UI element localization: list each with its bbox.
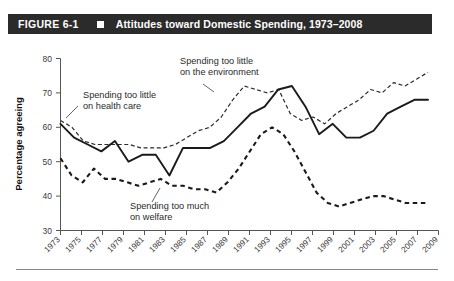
square-bullet-icon bbox=[97, 21, 104, 28]
y-tick-label-60: 60 bbox=[43, 122, 53, 132]
x-tick-label-2001: 2001 bbox=[337, 235, 357, 255]
annotation-welfare-line-1: Spending too much bbox=[130, 201, 209, 211]
page-bottom-rule bbox=[16, 269, 438, 270]
x-tick-label-1985: 1985 bbox=[169, 235, 189, 255]
y-tick-label-50: 50 bbox=[43, 157, 53, 167]
x-tick-label-1995: 1995 bbox=[274, 235, 294, 255]
figure-page: FIGURE 6-1 Attitudes toward Domestic Spe… bbox=[0, 0, 454, 281]
y-tick-label-80: 80 bbox=[43, 54, 53, 64]
y-axis-ticks bbox=[56, 59, 61, 231]
x-tick-label-2007: 2007 bbox=[400, 235, 420, 255]
annotation-environment-line-1: Spending too little bbox=[180, 56, 253, 66]
annotation-environment: Spending too little on the environment bbox=[180, 56, 259, 77]
x-tick-label-1993: 1993 bbox=[253, 235, 273, 255]
leader-line-environment bbox=[203, 84, 214, 92]
annotation-welfare-line-2: on welfare bbox=[130, 212, 172, 222]
x-tick-label-1979: 1979 bbox=[106, 235, 126, 255]
x-tick-label-1999: 1999 bbox=[316, 235, 336, 255]
y-tick-label-70: 70 bbox=[43, 88, 53, 98]
x-tick-label-1983: 1983 bbox=[148, 235, 168, 255]
annotation-environment-line-2: on the environment bbox=[180, 67, 259, 77]
y-axis-title: Percentage agreeing bbox=[13, 97, 24, 191]
annotation-health-care-line-2: on health care bbox=[83, 101, 141, 111]
figure-number-label: FIGURE 6-1 bbox=[18, 18, 79, 30]
annotation-health-care-line-1: Spending too little bbox=[83, 90, 156, 100]
chart-area: 80 70 60 50 40 30 Percentage agreeing bbox=[0, 36, 454, 264]
x-tick-label-1991: 1991 bbox=[232, 235, 252, 255]
x-tick-label-2009: 2009 bbox=[421, 235, 441, 255]
x-tick-label-1975: 1975 bbox=[64, 235, 84, 255]
leader-line-welfare bbox=[152, 188, 160, 202]
figure-title-bar: FIGURE 6-1 Attitudes toward Domestic Spe… bbox=[8, 14, 432, 34]
x-tick-label-1977: 1977 bbox=[85, 235, 105, 255]
y-tick-label-30: 30 bbox=[43, 226, 53, 236]
x-tick-label-1987: 1987 bbox=[190, 235, 210, 255]
line-chart: 80 70 60 50 40 30 Percentage agreeing bbox=[0, 36, 454, 264]
y-tick-label-40: 40 bbox=[43, 191, 53, 201]
x-tick-label-1973: 1973 bbox=[43, 235, 63, 255]
series-line-welfare bbox=[61, 127, 429, 206]
annotation-welfare: Spending too much on welfare bbox=[130, 201, 209, 222]
x-tick-label-1981: 1981 bbox=[127, 235, 147, 255]
x-axis-ticks bbox=[61, 231, 439, 236]
x-tick-label-2005: 2005 bbox=[379, 235, 399, 255]
x-axis-tick-labels: 1973 1975 1977 1979 1981 1983 1985 1987 … bbox=[43, 235, 441, 255]
annotation-health-care: Spending too little on health care bbox=[83, 90, 156, 111]
leader-line-health-care bbox=[66, 106, 78, 118]
x-tick-label-2003: 2003 bbox=[358, 235, 378, 255]
x-tick-label-1989: 1989 bbox=[211, 235, 231, 255]
figure-title-label: Attitudes toward Domestic Spending, 1973… bbox=[116, 18, 363, 30]
x-tick-label-1997: 1997 bbox=[295, 235, 315, 255]
